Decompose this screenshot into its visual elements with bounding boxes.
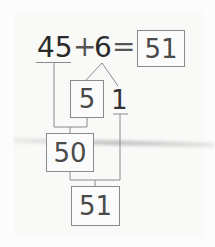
partial-sum-box: 50 [46,133,94,172]
part-a-box: 5 [70,80,104,118]
part-b-value: 1 [111,86,128,114]
final-sum-box: 51 [71,186,120,226]
